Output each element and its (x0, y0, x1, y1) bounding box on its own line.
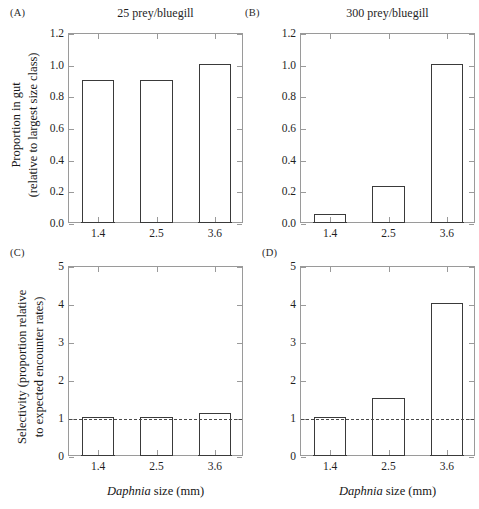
x-tick-mark (330, 217, 331, 222)
y-tick-mark (301, 192, 306, 193)
y-tick-label: 0 (290, 451, 296, 463)
y-tick-mark-right (469, 224, 474, 225)
x-tick-mark-top (98, 267, 99, 272)
figure-root: (A) 25 prey/bluegill Proportion in gut (… (0, 0, 479, 509)
y-tick-mark-right (469, 34, 474, 35)
x-tick-label: 2.5 (381, 228, 395, 240)
y-tick-label: 1 (58, 413, 64, 425)
y-tick-label: 0.0 (282, 218, 296, 230)
y-tick-mark (69, 267, 74, 268)
y-tick-mark (69, 34, 74, 35)
panel-c-y-axis-title: Selectivity (proportion relative to expe… (14, 274, 48, 460)
panel-b-title: 300 prey/bluegill (300, 6, 475, 21)
y-tick-label: 0.2 (50, 187, 64, 199)
y-tick-label: 0.8 (282, 92, 296, 104)
bar (372, 398, 405, 455)
panel-c: (C) Selectivity (proportion relative to … (0, 240, 247, 509)
y-tick-mark (69, 161, 74, 162)
panel-a: (A) 25 prey/bluegill Proportion in gut (… (0, 0, 247, 240)
x-tick-mark (447, 450, 448, 455)
x-tick-mark (215, 450, 216, 455)
panel-d-x-axis-title: Daphnia size (mm) (300, 484, 475, 499)
panel-a-plot-area: 0.00.20.40.60.81.01.21.42.53.6 (68, 33, 243, 223)
panel-a-y-axis-title: Proportion in gut (relative to largest s… (8, 36, 42, 214)
y-tick-label: 1.0 (282, 60, 296, 72)
panel-a-y-axis-title-line2: (relative to largest size class) (25, 36, 42, 214)
y-tick-label: 5 (290, 261, 296, 273)
bar (140, 80, 173, 223)
x-tick-mark (447, 217, 448, 222)
y-tick-label: 3 (58, 337, 64, 349)
y-tick-label: 0.4 (282, 155, 296, 167)
x-tick-label: 1.4 (91, 228, 105, 240)
x-tick-mark (98, 217, 99, 222)
y-tick-label: 0.2 (282, 187, 296, 199)
x-tick-mark (98, 450, 99, 455)
y-tick-mark (69, 224, 74, 225)
y-tick-label: 1 (290, 413, 296, 425)
panel-a-label: (A) (10, 7, 25, 18)
panel-c-label: (C) (10, 247, 25, 258)
x-tick-mark-top (215, 34, 216, 39)
x-tick-label: 3.6 (440, 461, 454, 473)
y-tick-label: 2 (290, 375, 296, 387)
x-tick-label: 3.6 (440, 228, 454, 240)
x-tick-label: 2.5 (149, 228, 163, 240)
y-tick-label: 0.6 (282, 123, 296, 135)
y-tick-mark (69, 97, 74, 98)
y-tick-label: 1.0 (50, 60, 64, 72)
panel-d: (D) 0123451.42.53.6 Daphnia size (mm) (240, 240, 479, 509)
x-tick-label: 1.4 (323, 461, 337, 473)
x-tick-mark-top (389, 267, 390, 272)
bar (82, 80, 115, 223)
panel-d-plot-area: 0123451.42.53.6 (300, 266, 475, 456)
y-tick-mark (69, 343, 74, 344)
panel-d-x-axis-title-genus: Daphnia (339, 484, 383, 498)
x-tick-mark (157, 450, 158, 455)
bar (431, 64, 464, 222)
x-tick-mark-top (447, 34, 448, 39)
y-tick-label: 4 (290, 299, 296, 311)
bar (199, 64, 232, 222)
y-tick-mark (69, 129, 74, 130)
x-tick-mark-top (157, 267, 158, 272)
x-tick-mark-top (215, 267, 216, 272)
y-tick-mark (301, 457, 306, 458)
panel-c-y-axis-title-line1: Selectivity (proportion relative (14, 274, 31, 460)
y-tick-label: 0.0 (50, 218, 64, 230)
bar (431, 303, 464, 455)
x-tick-label: 3.6 (208, 228, 222, 240)
y-tick-mark (301, 66, 306, 67)
y-tick-mark-right (469, 97, 474, 98)
x-tick-mark-top (330, 267, 331, 272)
x-tick-label: 2.5 (381, 461, 395, 473)
panel-c-x-axis-title: Daphnia size (mm) (68, 484, 243, 499)
x-tick-mark-top (330, 34, 331, 39)
y-tick-label: 0 (58, 451, 64, 463)
y-tick-mark (69, 381, 74, 382)
y-tick-mark (301, 34, 306, 35)
x-tick-label: 1.4 (323, 228, 337, 240)
x-tick-mark-top (389, 34, 390, 39)
panel-a-title: 25 prey/bluegill (68, 6, 243, 21)
y-tick-label: 0.4 (50, 155, 64, 167)
x-tick-label: 3.6 (208, 461, 222, 473)
y-tick-mark (301, 224, 306, 225)
y-tick-mark (301, 267, 306, 268)
y-tick-mark (301, 129, 306, 130)
y-tick-label: 1.2 (282, 28, 296, 40)
y-tick-mark-right (469, 192, 474, 193)
panel-b: (B) 300 prey/bluegill 0.00.20.40.60.81.0… (240, 0, 479, 240)
panel-a-y-axis-title-line1: Proportion in gut (8, 36, 25, 214)
y-tick-label: 4 (58, 299, 64, 311)
x-tick-mark (330, 450, 331, 455)
y-tick-label: 1.2 (50, 28, 64, 40)
y-tick-mark-right (469, 457, 474, 458)
y-tick-mark (301, 381, 306, 382)
y-tick-label: 2 (58, 375, 64, 387)
y-tick-label: 0.6 (50, 123, 64, 135)
x-tick-mark-top (98, 34, 99, 39)
y-tick-mark-right (469, 129, 474, 130)
y-tick-mark (301, 97, 306, 98)
panel-b-plot-area: 0.00.20.40.60.81.01.21.42.53.6 (300, 33, 475, 223)
